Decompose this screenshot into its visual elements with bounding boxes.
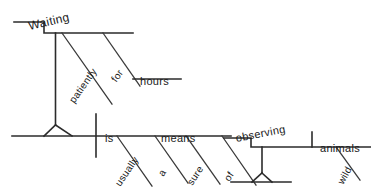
word-animals: animals xyxy=(320,143,360,154)
word-hours: hours xyxy=(140,76,169,87)
diagram-lines xyxy=(0,0,371,194)
gerund-subject-tripod-left xyxy=(44,125,56,136)
gerund-subject-tripod-right xyxy=(56,125,73,136)
word-means: means xyxy=(161,133,196,144)
gerund-object-tripod-left xyxy=(252,173,262,182)
gerund-object-tripod-right xyxy=(262,173,272,182)
word-is: is xyxy=(105,133,114,144)
sentence-diagram: . xyxy=(0,0,371,194)
